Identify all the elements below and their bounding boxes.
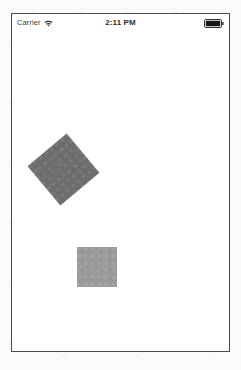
- battery-full-icon: [204, 14, 224, 32]
- status-bar-left: Carrier: [17, 14, 53, 32]
- status-bar: Carrier 2:11 PM: [12, 14, 229, 31]
- status-bar-right: [204, 14, 224, 32]
- rotated-square-shape: [28, 134, 100, 206]
- carrier-label: Carrier: [17, 19, 41, 27]
- plain-square-shape: [77, 247, 117, 287]
- shape-canvas: [12, 31, 229, 351]
- plain-square-texture: [77, 247, 117, 287]
- wifi-icon: [44, 14, 53, 32]
- device-frame: Carrier 2:11 PM: [11, 13, 230, 352]
- rotated-square-texture: [28, 134, 100, 206]
